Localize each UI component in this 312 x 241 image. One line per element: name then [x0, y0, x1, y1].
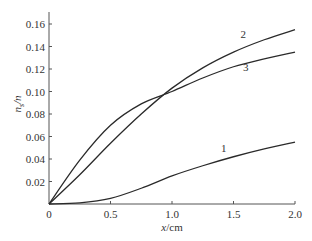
curve-label-2: 2 — [241, 28, 247, 40]
chart: 00.51.01.52.00.020.040.060.080.100.120.1… — [0, 0, 312, 241]
y-tick-label: 0.02 — [26, 176, 45, 188]
curve-label-1: 1 — [221, 142, 227, 154]
y-tick-label: 0.04 — [26, 153, 46, 165]
x-tick-label: 1.0 — [165, 208, 179, 220]
x-axis-label: x/cm — [160, 221, 183, 233]
labels: 123 — [221, 28, 249, 155]
curves — [49, 30, 295, 204]
curve-label-3: 3 — [243, 61, 249, 73]
y-tick-label: 0.10 — [26, 86, 46, 98]
y-tick-label: 0.06 — [26, 131, 46, 143]
y-tick-label: 0.14 — [26, 41, 46, 53]
curve-3 — [49, 52, 295, 204]
x-tick-label: 0 — [46, 208, 52, 220]
x-tick-label: 0.5 — [104, 208, 118, 220]
y-tick-label: 0.16 — [26, 18, 46, 30]
x-tick-label: 2.0 — [288, 208, 302, 220]
curve-2 — [49, 30, 295, 204]
y-tick-label: 0.12 — [26, 63, 45, 75]
x-tick-label: 1.5 — [227, 208, 241, 220]
y-tick-label: 0.08 — [26, 108, 46, 120]
y-axis-label: ns/n — [11, 95, 26, 113]
axes: 00.51.01.52.00.020.040.060.080.100.120.1… — [26, 12, 303, 220]
